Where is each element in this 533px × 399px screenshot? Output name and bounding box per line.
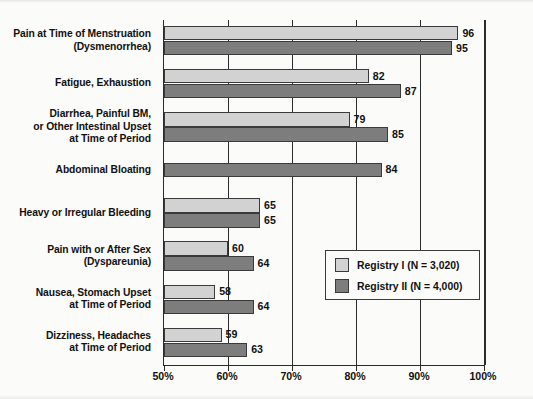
category-label-line: at Time of Period — [0, 342, 151, 355]
bar — [164, 343, 247, 358]
bar-value-label: 82 — [373, 71, 385, 82]
legend-entry-registry-ii: Registry II (N = 4,000) — [335, 278, 462, 294]
category-label: Pain at Time of Menstruation(Dysmenorrhe… — [0, 28, 157, 53]
bar — [164, 163, 382, 178]
bar-value-label: 59 — [226, 329, 238, 340]
bar — [164, 285, 215, 300]
bar — [164, 112, 350, 127]
scan-artifact-top — [0, 0, 533, 3]
category-label-line: at Time of Period — [0, 133, 151, 146]
bar — [164, 84, 401, 99]
x-axis-tick-labels: 50%60%70%80%90%100% — [163, 370, 483, 386]
legend-swatch-icon-registry-i — [335, 258, 349, 272]
category-label-line: Fatigue, Exhaustion — [0, 77, 151, 90]
x-axis-tick-label: 90% — [408, 370, 429, 382]
bar-value-label: 65 — [264, 200, 276, 211]
bar — [164, 198, 260, 213]
category-label-line: Heavy or Irregular Bleeding — [0, 207, 151, 220]
bar — [164, 26, 458, 41]
category-label-line: Pain with or After Sex — [0, 244, 151, 257]
legend-entry-registry-i: Registry I (N = 3,020) — [335, 257, 460, 273]
x-axis-tick-label: 60% — [216, 370, 237, 382]
chart-legend: Registry I (N = 3,020) Registry II (N = … — [325, 250, 480, 300]
bar-value-label: 64 — [258, 301, 270, 312]
category-label-line: (Dysmenorrhea) — [0, 41, 151, 54]
category-label: Nausea, Stomach Upsetat Time of Period — [0, 287, 157, 312]
bar — [164, 41, 452, 56]
bar-value-label: 95 — [456, 43, 468, 54]
category-label-line: or Other Intestinal Upset — [0, 121, 151, 134]
plot-area: 969582877985846565606458645963 — [163, 20, 484, 366]
category-label-line: (Dyspareunia) — [0, 256, 151, 269]
x-axis-tick-label: 80% — [344, 370, 365, 382]
category-axis-labels: Pain at Time of Menstruation(Dysmenorrhe… — [0, 20, 157, 365]
bar-value-label: 64 — [258, 258, 270, 269]
x-axis-tick-label: 100% — [469, 370, 496, 382]
scan-artifact-bottom — [0, 395, 533, 399]
x-axis-tick-label: 50% — [152, 370, 173, 382]
category-label-line: Dizziness, Headaches — [0, 330, 151, 343]
bar-value-label: 60 — [232, 243, 244, 254]
category-label-line: Abdominal Bloating — [0, 164, 151, 177]
bar-value-label: 63 — [251, 344, 263, 355]
bar — [164, 69, 369, 84]
bar — [164, 241, 228, 256]
category-label: Diarrhea, Painful BM,or Other Intestinal… — [0, 108, 157, 146]
bar-value-label: 85 — [392, 129, 404, 140]
bar-value-label: 79 — [354, 114, 366, 125]
bar-value-label: 58 — [219, 286, 231, 297]
category-label-line: Pain at Time of Menstruation — [0, 28, 151, 41]
legend-swatch-icon-registry-ii — [335, 279, 349, 293]
category-label-line: Diarrhea, Painful BM, — [0, 108, 151, 121]
x-axis-tick-label: 70% — [280, 370, 301, 382]
category-label: Dizziness, Headachesat Time of Period — [0, 330, 157, 355]
bar — [164, 300, 254, 315]
bar-value-label: 84 — [386, 164, 398, 175]
category-label-line: at Time of Period — [0, 299, 151, 312]
category-label-line: Nausea, Stomach Upset — [0, 287, 151, 300]
bar — [164, 127, 388, 142]
bar-value-label: 96 — [462, 28, 474, 39]
legend-label-registry-ii: Registry II (N = 4,000) — [357, 281, 462, 292]
bar — [164, 256, 254, 271]
bar — [164, 328, 222, 343]
bar-value-label: 65 — [264, 215, 276, 226]
category-label: Abdominal Bloating — [0, 164, 157, 177]
legend-label-registry-i: Registry I (N = 3,020) — [357, 260, 460, 271]
gridline — [484, 20, 486, 365]
bar-chart: Pain at Time of Menstruation(Dysmenorrhe… — [0, 0, 533, 399]
bar — [164, 213, 260, 228]
category-label: Pain with or After Sex(Dyspareunia) — [0, 244, 157, 269]
category-label: Fatigue, Exhaustion — [0, 77, 157, 90]
gridline — [420, 20, 421, 365]
bar-value-label: 87 — [405, 86, 417, 97]
category-label: Heavy or Irregular Bleeding — [0, 207, 157, 220]
